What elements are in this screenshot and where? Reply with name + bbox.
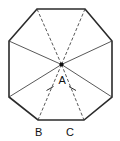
vertex-label-c: C	[66, 126, 74, 138]
tick-mark-ac	[69, 87, 76, 91]
vertex-label-b: B	[35, 126, 42, 138]
radius-to-vertex-c	[62, 65, 85, 121]
radius-to-left-bottom	[9, 65, 62, 98]
radius-to-top-left	[37, 9, 62, 65]
radius-to-top-right	[62, 9, 86, 65]
radius-to-vertex-b	[38, 65, 62, 121]
radius-to-right-top	[62, 41, 113, 65]
tick-mark-ab	[47, 87, 54, 91]
octagon-figure-svg: A B C	[0, 0, 120, 141]
radius-to-right-bottom	[62, 65, 113, 98]
radius-to-left-top	[9, 41, 62, 65]
center-label-a: A	[59, 74, 67, 86]
octagon-diagram-canvas: A B C	[0, 0, 120, 141]
center-point-dot	[59, 62, 63, 66]
